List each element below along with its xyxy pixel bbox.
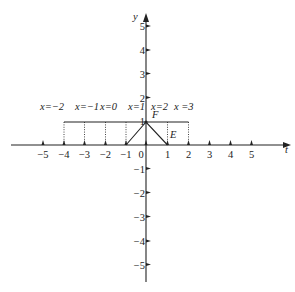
svg-text:−4: −4 xyxy=(58,149,70,160)
svg-text:−2: −2 xyxy=(100,149,111,160)
point-e-label: E xyxy=(169,129,177,140)
svg-text:1: 1 xyxy=(165,149,170,160)
svg-text:x =3: x =3 xyxy=(173,101,194,112)
svg-text:3: 3 xyxy=(140,69,145,80)
x-equation-labels: x=−2 x=−1 x=0 x=1 x=2 x =3 xyxy=(39,101,194,112)
t-tick-markers xyxy=(42,140,254,145)
svg-text:−3: −3 xyxy=(79,149,90,160)
svg-text:−4: −4 xyxy=(134,236,146,247)
svg-text:−5: −5 xyxy=(37,149,48,160)
triangle-segments xyxy=(126,122,168,145)
coordinate-diagram: t y −5 −4 −3 −2 −1 0 1 2 xyxy=(0,0,295,292)
svg-text:−3: −3 xyxy=(134,212,145,223)
svg-text:5: 5 xyxy=(140,21,145,32)
svg-text:3: 3 xyxy=(207,149,212,160)
svg-text:2: 2 xyxy=(186,149,191,160)
y-tick-labels: 5 4 3 2 1 −1 −2 −3 −4 −5 xyxy=(134,21,146,271)
svg-text:4: 4 xyxy=(140,45,146,56)
svg-text:0: 0 xyxy=(138,149,143,160)
y-axis-label: y xyxy=(132,11,138,22)
svg-text:x=2: x=2 xyxy=(150,101,169,112)
svg-text:4: 4 xyxy=(228,149,234,160)
svg-text:x=−2: x=−2 xyxy=(39,101,65,112)
svg-text:−2: −2 xyxy=(134,188,145,199)
svg-text:x=1: x=1 xyxy=(127,101,145,112)
svg-text:x=−1: x=−1 xyxy=(74,101,99,112)
svg-text:−1: −1 xyxy=(134,164,145,175)
svg-text:5: 5 xyxy=(249,149,254,160)
svg-text:−5: −5 xyxy=(134,260,145,271)
svg-text:−1: −1 xyxy=(120,149,131,160)
svg-text:x=0: x=0 xyxy=(99,101,118,112)
point-f-marker xyxy=(144,120,147,123)
